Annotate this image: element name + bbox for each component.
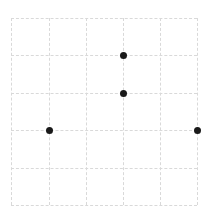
gridline-vertical-3 bbox=[123, 18, 124, 205]
gridline-horizontal-2 bbox=[11, 93, 197, 94]
gridline-horizontal-5 bbox=[11, 205, 197, 206]
data-point[interactable] bbox=[46, 127, 53, 134]
gridline-horizontal-0 bbox=[11, 18, 197, 19]
gridline-vertical-4 bbox=[160, 18, 161, 205]
scatter-plot-area[interactable] bbox=[0, 0, 208, 223]
data-point[interactable] bbox=[120, 52, 127, 59]
gridline-vertical-2 bbox=[86, 18, 87, 205]
data-point[interactable] bbox=[120, 90, 127, 97]
gridline-horizontal-1 bbox=[11, 55, 197, 56]
gridline-vertical-1 bbox=[49, 18, 50, 205]
gridline-horizontal-4 bbox=[11, 168, 197, 169]
data-point[interactable] bbox=[194, 127, 201, 134]
gridline-vertical-0 bbox=[11, 18, 12, 205]
gridline-vertical-5 bbox=[197, 18, 198, 205]
gridline-horizontal-3 bbox=[11, 130, 197, 131]
chart-figure bbox=[0, 0, 208, 223]
